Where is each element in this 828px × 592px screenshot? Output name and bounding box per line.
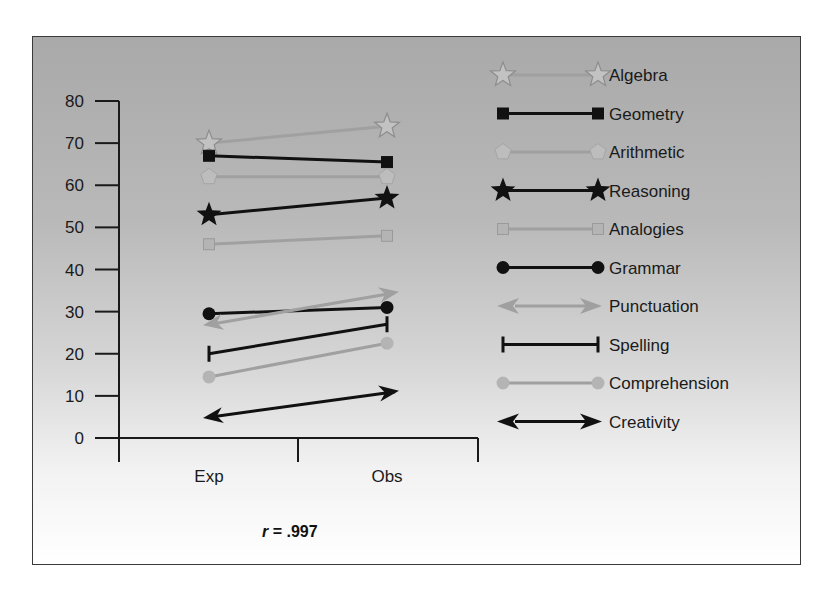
legend-label: Geometry — [609, 105, 684, 124]
correlation-annotation: r = .997 — [262, 523, 318, 540]
series-algebra — [197, 113, 400, 153]
legend-label: Reasoning — [609, 182, 690, 201]
y-tick-label: 0 — [75, 429, 84, 448]
series-comprehension — [203, 337, 394, 384]
legend-item-punctuation: Punctuation — [497, 297, 699, 316]
y-tick-label: 40 — [65, 261, 84, 280]
y-tick-label: 20 — [65, 345, 84, 364]
y-tick-label: 30 — [65, 303, 84, 322]
r-value: = .997 — [268, 523, 317, 540]
series-spelling — [209, 316, 387, 361]
legend-label: Spelling — [609, 336, 670, 355]
series-geometry — [204, 150, 393, 167]
y-tick-label: 70 — [65, 134, 84, 153]
legend-label: Creativity — [609, 413, 680, 432]
legend-item-comprehension: Comprehension — [497, 374, 730, 393]
y-tick-label: 80 — [65, 92, 84, 111]
x-axis: Exp Obs — [95, 438, 478, 486]
legend-item-algebra: Algebra — [491, 62, 669, 86]
legend-item-analogies: Analogies — [498, 220, 684, 239]
legend-item-spelling: Spelling — [503, 336, 670, 355]
legend-item-reasoning: Reasoning — [491, 178, 691, 202]
legend-item-grammar: Grammar — [497, 259, 682, 278]
legend-label: Punctuation — [609, 297, 699, 316]
legend-item-creativity: Creativity — [497, 413, 680, 432]
x-category-exp: Exp — [194, 467, 223, 486]
x-category-obs: Obs — [371, 467, 402, 486]
legend-label: Algebra — [609, 66, 668, 85]
legend-label: Analogies — [609, 220, 684, 239]
series-layer — [197, 113, 400, 423]
series-creativity — [203, 386, 399, 423]
legend-label: Arithmetic — [609, 143, 685, 162]
y-tick-label: 10 — [65, 387, 84, 406]
legend-label: Grammar — [609, 259, 681, 278]
series-arithmetic — [201, 168, 395, 183]
legend-label: Comprehension — [609, 374, 729, 393]
legend-item-arithmetic: Arithmetic — [495, 143, 685, 162]
legend: AlgebraGeometryArithmeticReasoningAnalog… — [491, 62, 729, 432]
y-axis: 01020304050607080 — [65, 92, 119, 462]
legend-item-geometry: Geometry — [498, 105, 685, 124]
y-tick-label: 50 — [65, 218, 84, 237]
line-chart: 01020304050607080 Exp Obs AlgebraGeometr… — [0, 0, 828, 592]
y-tick-label: 60 — [65, 176, 84, 195]
series-analogies — [204, 230, 393, 249]
series-reasoning — [197, 185, 400, 225]
